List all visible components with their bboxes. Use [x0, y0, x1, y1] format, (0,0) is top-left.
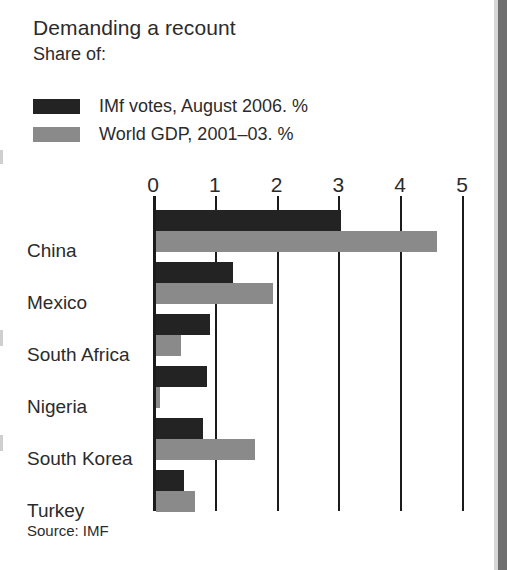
bar-imf-turkey: [156, 470, 184, 491]
xtick-label-0: 0: [138, 173, 168, 197]
chart-figure: Demanding a recount Share of: IMf votes,…: [0, 0, 507, 570]
bar-gdp-turkey: [156, 491, 195, 512]
bar-gdp-south-africa: [156, 335, 181, 356]
bar-imf-south-africa: [156, 314, 210, 335]
bar-imf-china: [156, 210, 341, 231]
xtick-label-3: 3: [323, 173, 353, 197]
category-label-mexico: Mexico: [27, 292, 87, 314]
bar-imf-south-korea: [156, 418, 203, 439]
xtick-label-1: 1: [200, 173, 230, 197]
category-label-south-korea: South Korea: [27, 448, 133, 470]
bar-gdp-mexico: [156, 283, 273, 304]
category-label-south-africa: South Africa: [27, 344, 129, 366]
source-note: Source: IMF: [27, 522, 109, 539]
gridline-5: [462, 196, 464, 511]
xtick-label-4: 4: [385, 173, 415, 197]
xtick-label-5: 5: [447, 173, 477, 197]
bar-imf-nigeria: [156, 366, 207, 387]
plot-area: 0 1 2 3 4 5 China Mexico South Africa Ni…: [0, 0, 507, 570]
category-label-nigeria: Nigeria: [27, 396, 87, 418]
bar-gdp-china: [156, 231, 437, 252]
category-label-turkey: Turkey: [27, 500, 84, 522]
xtick-label-2: 2: [262, 173, 292, 197]
category-label-china: China: [27, 240, 77, 262]
bar-gdp-nigeria: [156, 387, 160, 408]
bar-gdp-south-korea: [156, 439, 255, 460]
bar-imf-mexico: [156, 262, 233, 283]
